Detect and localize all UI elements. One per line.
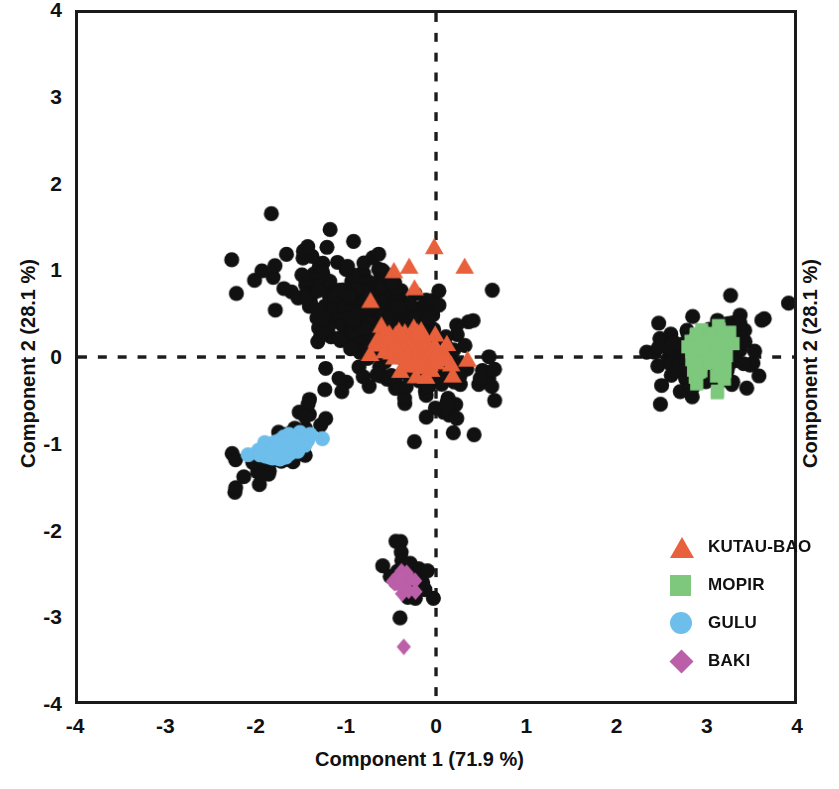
y-tick-label: 3 [0,85,62,109]
x-tick-label: 0 [430,714,442,738]
legend-label: MOPIR [708,575,765,595]
x-tick-label: -4 [66,714,85,738]
x-tick-label: 3 [701,714,713,738]
y-tick-label: -3 [0,605,62,629]
diamond-marker-icon [670,649,694,673]
y-axis-title-right: Component 2 (28.1 %) [799,214,822,514]
legend-item-kutau-bao[interactable]: KUTAU-BAO [670,528,811,566]
chart-legend: KUTAU-BAOMOPIRGULUBAKI [670,528,811,680]
triangle-marker-icon [670,535,694,559]
x-axis-title: Component 1 (71.9 %) [0,748,839,771]
legend-label: BAKI [708,651,750,671]
legend-item-baki[interactable]: BAKI [670,642,811,680]
square-marker-icon [670,573,694,597]
x-tick-label: -1 [336,714,355,738]
x-tick-label: -3 [156,714,175,738]
legend-label: KUTAU-BAO [708,537,811,557]
legend-item-mopir[interactable]: MOPIR [670,566,811,604]
x-tick-label: -2 [246,714,265,738]
x-tick-label: 4 [791,714,803,738]
y-tick-label: -4 [0,692,62,716]
y-tick-label: -2 [0,519,62,543]
legend-label: GULU [708,613,757,633]
legend-item-gulu[interactable]: GULU [670,604,811,642]
x-tick-label: 2 [611,714,623,738]
x-tick-label: 1 [520,714,532,738]
y-tick-label: 2 [0,172,62,196]
circle-marker-icon [670,611,694,635]
scatter-plot-figure: 43210-1-2-3-4 -4-3-2-101234 Component 1 … [0,0,839,789]
y-tick-label: 4 [0,0,62,22]
y-axis-title-left: Component 2 (28.1 %) [17,214,40,514]
